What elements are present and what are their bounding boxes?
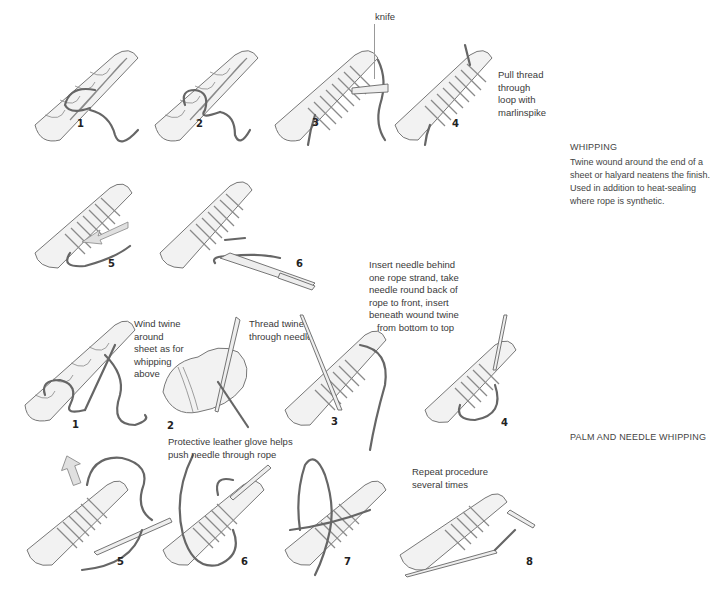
finished-whipping-illustration-icon	[395, 480, 535, 575]
knife-icon	[350, 80, 390, 100]
step-number: 4	[501, 417, 508, 428]
rope-needle-illustration-icon	[158, 455, 278, 580]
step-number: 1	[77, 118, 84, 129]
step-number: 4	[452, 118, 459, 129]
step-number: 6	[296, 258, 303, 269]
step-note: Protective leather glove helps push need…	[168, 436, 293, 461]
rope-loop-illustration-icon	[150, 30, 270, 150]
step-number: 5	[108, 258, 115, 269]
step-number: 2	[167, 420, 174, 431]
section-description: Twine wound around the end of a sheet or…	[570, 156, 716, 208]
arrow-down-left-icon	[80, 218, 130, 248]
step-number: 3	[331, 416, 338, 427]
step-note: Pull thread through loop with marlinspik…	[498, 69, 546, 119]
section-title: WHIPPING	[570, 142, 617, 152]
step-number: 2	[196, 118, 203, 129]
step-number: 8	[526, 556, 533, 567]
step-number: 5	[117, 556, 124, 567]
gloved-hand-needle-illustration-icon	[158, 312, 258, 432]
step-number: 1	[72, 419, 79, 430]
rope-loop-illustration-icon	[30, 30, 150, 150]
step-note: Repeat procedure several times	[412, 466, 488, 491]
step-number: 6	[241, 556, 248, 567]
knife-label: knife	[375, 11, 395, 24]
rope-needle-illustration-icon	[420, 310, 525, 430]
rope-twine-illustration-icon	[280, 455, 390, 580]
rope-needle-illustration-icon	[22, 450, 157, 580]
wound-rope-illustration-icon	[390, 30, 500, 145]
step-number: 3	[312, 117, 319, 128]
knife-pointer-line	[374, 24, 375, 79]
section-title: PALM AND NEEDLE WHIPPING	[570, 432, 706, 442]
step-number: 7	[344, 556, 351, 567]
